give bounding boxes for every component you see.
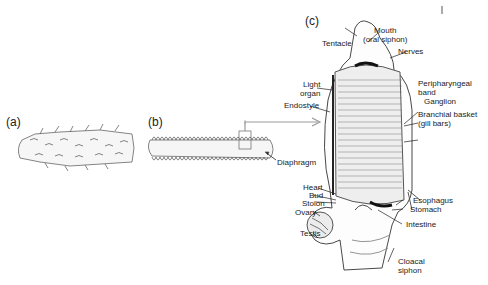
- panel-label-b: (b): [148, 115, 163, 129]
- label-light-line2: organ: [300, 89, 320, 98]
- label-branch-line2: (gill bars): [418, 119, 477, 128]
- label-diaphragm: Diaphragm: [277, 158, 316, 167]
- label-branchial-basket: Branchial basket (gill bars): [418, 110, 477, 128]
- label-cloacal-siphon: Cloacal siphon: [398, 257, 425, 275]
- label-mouth-line2: (oral siphon): [363, 35, 407, 44]
- panel-label-a: (a): [6, 115, 21, 129]
- label-esophagus: Esophagus: [413, 196, 453, 205]
- label-mouth-line1: Mouth: [363, 26, 407, 35]
- label-cloacal-line1: Cloacal: [398, 257, 425, 266]
- label-intestine: Intestine: [406, 220, 436, 229]
- label-tentacle: Tentacle: [322, 39, 352, 48]
- panel-label-c: (c): [305, 14, 319, 28]
- label-ganglion: Ganglion: [424, 97, 456, 106]
- label-peri-line1: Peripharyngeal: [418, 79, 472, 88]
- label-stomach: Stomach: [410, 205, 442, 214]
- label-testis: Testis: [300, 229, 320, 238]
- label-stolon: Stolon: [302, 199, 325, 208]
- label-endostyle: Endostyle: [284, 101, 319, 110]
- colony-b-drawing: [148, 118, 320, 160]
- label-branch-line1: Branchial basket: [418, 110, 477, 119]
- colony-a-drawing: [18, 124, 134, 171]
- label-peripharyngeal-band: Peripharyngeal band: [418, 79, 472, 97]
- label-mouth: Mouth (oral siphon): [363, 26, 407, 44]
- label-peri-line2: band: [418, 88, 472, 97]
- label-ovary: Ovary: [295, 208, 316, 217]
- diagram-drawing: [0, 0, 488, 285]
- label-nerves: Nerves: [398, 47, 423, 56]
- label-light-organ: Light organ: [300, 80, 320, 98]
- label-cloacal-line2: siphon: [398, 266, 425, 275]
- label-light-line1: Light: [300, 80, 320, 89]
